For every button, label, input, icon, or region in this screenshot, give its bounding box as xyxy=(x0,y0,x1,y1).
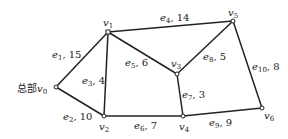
node-labels: 总部v0 v1 v2 v3 v4 v5 v6 xyxy=(17,7,275,134)
node-v1 xyxy=(106,30,110,34)
edges xyxy=(56,21,262,116)
edge-label-e9: e9, 9 xyxy=(209,117,232,130)
node-v2 xyxy=(102,114,106,118)
node-label-v2: v2 xyxy=(99,121,109,134)
edge-e3 xyxy=(104,32,108,116)
node-label-v0: 总部v0 xyxy=(17,82,47,96)
edge-label-e7: e7, 3 xyxy=(182,89,205,102)
nodes xyxy=(54,19,264,118)
edge-label-e5: e5, 6 xyxy=(125,57,148,70)
edge-label-e8: e8, 5 xyxy=(203,51,226,64)
node-label-v5: v5 xyxy=(228,7,238,20)
node-label-v4: v4 xyxy=(179,121,190,134)
node-label-v3: v3 xyxy=(171,58,181,71)
edge-label-e6: e6, 7 xyxy=(134,120,157,133)
edge-label-e2: e2, 10 xyxy=(63,111,92,124)
edge-label-e1: e1, 15 xyxy=(52,49,81,62)
node-v0 xyxy=(54,85,58,89)
node-label-v1: v1 xyxy=(103,17,113,30)
edge-labels: e1, 15 e2, 10 e3, 4 e4, 14 e5, 6 e6, 7 e… xyxy=(52,12,280,133)
node-v4 xyxy=(181,114,185,118)
node-label-v6: v6 xyxy=(264,110,275,123)
edge-label-e3: e3, 4 xyxy=(82,75,105,88)
node-v3 xyxy=(175,72,179,76)
edge-e8 xyxy=(177,21,233,74)
network-graph: 总部v0 v1 v2 v3 v4 v5 v6 e1, 15 e2, 10 e3,… xyxy=(0,0,288,139)
edge-e9 xyxy=(183,108,262,116)
edge-label-e10: e10, 8 xyxy=(252,61,280,74)
edge-label-e4: e4, 14 xyxy=(160,12,189,25)
